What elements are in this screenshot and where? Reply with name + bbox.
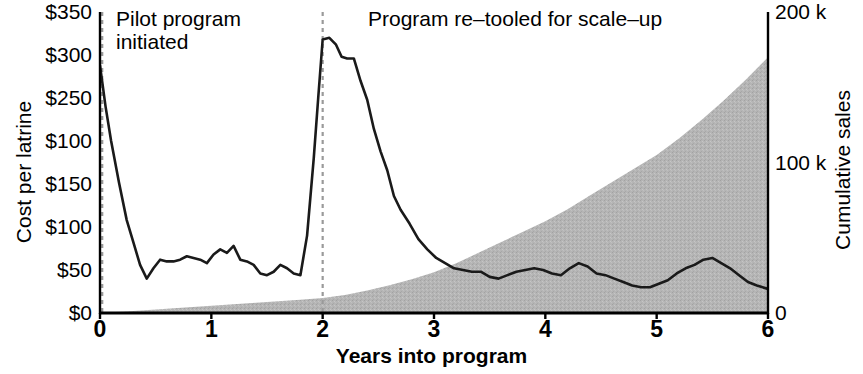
right-axis-title: Cumulative sales	[831, 50, 855, 290]
cumulative-sales-area	[100, 57, 768, 313]
annotation-guide-lines	[102, 12, 322, 313]
left-axis-title: Cost per latrine	[12, 52, 36, 292]
left-tick-label: $350	[18, 1, 92, 22]
right-tick-label: 200 k	[775, 1, 855, 22]
x-tick-label: 0	[80, 316, 120, 343]
annotation-program-retooled: Program re–tooled for scale–up	[368, 7, 662, 30]
x-tick-label: 1	[191, 316, 231, 343]
x-tick-label: 2	[303, 316, 343, 343]
x-tick-label: 4	[525, 316, 565, 343]
x-tick-label: 5	[637, 316, 677, 343]
x-axis-title: Years into program	[0, 344, 863, 368]
annotation-pilot-program: Pilot program initiated	[116, 7, 241, 53]
chart-figure: $0$50$100$150$100$250$300$350 0100 k200 …	[0, 0, 863, 374]
x-tick-label: 6	[748, 316, 788, 343]
x-tick-label: 3	[414, 316, 454, 343]
